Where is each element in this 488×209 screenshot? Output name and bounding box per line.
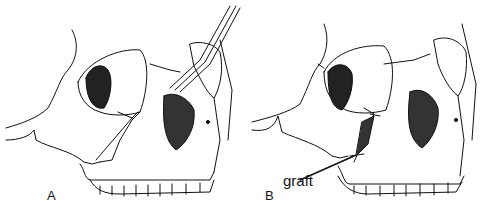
panel-a-label: A (47, 188, 56, 203)
panel-a-skull (6, 6, 240, 196)
panel-b-label: B (265, 188, 274, 203)
figure-illustration (0, 0, 488, 209)
panel-b-skull (252, 24, 476, 196)
graft-annotation: graft (283, 172, 313, 189)
